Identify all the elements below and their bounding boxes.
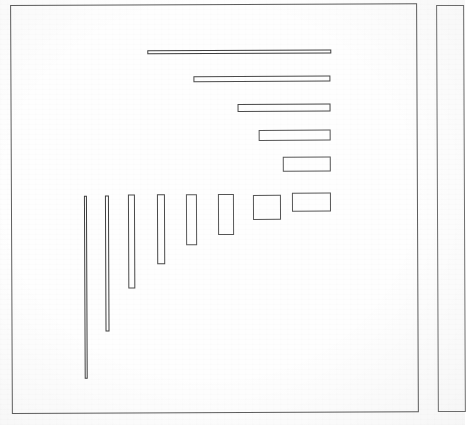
- rect-horizontal-bar-1: [147, 50, 331, 55]
- rectangle-series: [0, 0, 464, 1]
- rect-vertical-bar-11: [128, 194, 135, 288]
- figure-drawing: [0, 0, 466, 425]
- rect-horizontal-bar-2: [193, 76, 330, 83]
- side-panel-frame: [436, 5, 466, 412]
- rect-vertical-rect-8: [218, 194, 234, 235]
- rect-vertical-rect-9: [186, 194, 197, 245]
- rect-wide-rect-6: [292, 193, 331, 212]
- rect-square-7: [253, 195, 281, 220]
- rect-vertical-bar-12: [105, 196, 110, 332]
- rect-horizontal-bar-4: [259, 130, 331, 141]
- rect-horizontal-bar-3: [238, 104, 331, 112]
- main-figure-frame: [10, 3, 419, 414]
- rect-vertical-bar-10: [157, 194, 165, 264]
- rect-horizontal-bar-5: [283, 157, 331, 172]
